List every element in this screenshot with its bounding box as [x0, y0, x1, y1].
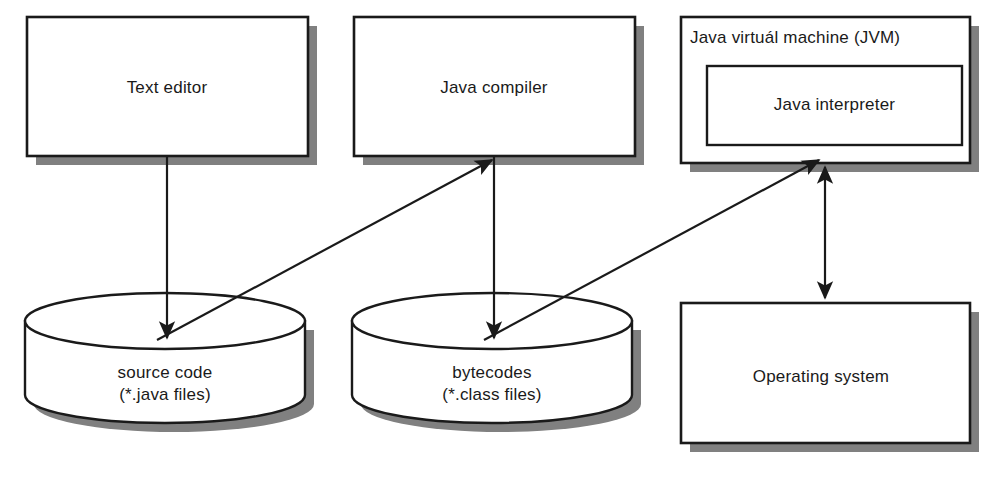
source-code-cylinder[interactable] [25, 293, 305, 423]
bytecodes-cylinder[interactable] [352, 293, 632, 423]
java-compiler-box[interactable] [354, 17, 635, 156]
java-execution-flow-diagram: Text editor Java compiler Java virtuál m… [0, 0, 989, 479]
java-interpreter-box[interactable] [707, 66, 962, 145]
operating-system-box[interactable] [681, 303, 970, 443]
diagram-canvas [0, 0, 989, 479]
cylinder-shapes [25, 293, 632, 423]
text-editor-box[interactable] [27, 17, 308, 156]
